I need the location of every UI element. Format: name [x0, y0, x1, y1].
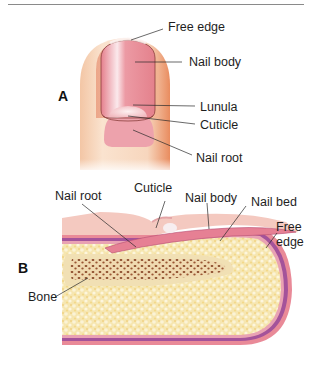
part-a-label: A — [58, 89, 68, 103]
callout-b-free-edge-line1: Free — [276, 221, 302, 234]
callout-b-bone: Bone — [28, 291, 57, 304]
callout-a-lunula: Lunula — [200, 101, 238, 114]
callout-b-free-edge-line2: edge — [276, 236, 304, 249]
callout-a-cuticle: Cuticle — [200, 119, 238, 132]
part-a-finger — [78, 38, 172, 172]
callout-b-nail-root: Nail root — [55, 190, 102, 203]
part-b-label: B — [18, 261, 28, 275]
callout-b-cuticle: Cuticle — [134, 182, 172, 195]
part-b-section — [62, 212, 298, 345]
callout-a-nail-body: Nail body — [189, 56, 241, 69]
callout-b-nail-body: Nail body — [185, 192, 237, 205]
callout-a-nail-root: Nail root — [196, 152, 243, 165]
callout-b-nail-bed: Nail bed — [251, 196, 297, 209]
callout-a-free-edge: Free edge — [168, 21, 225, 34]
